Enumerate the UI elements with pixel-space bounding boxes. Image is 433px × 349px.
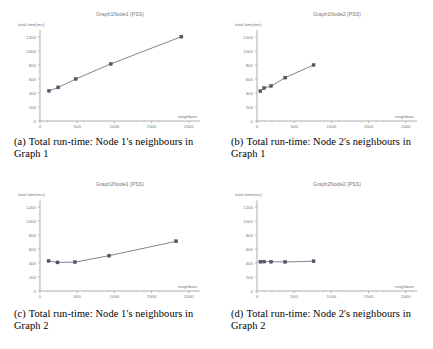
y-tick-label-b: 1000 (243, 49, 253, 54)
data-point (47, 89, 50, 92)
y-tick-label-c: 0 (34, 289, 37, 294)
chart-svg-d: Graph2Node2 (PSS)total time(ms)neighbors… (217, 170, 433, 306)
y-axis-label-c: total time(ms) (18, 192, 45, 197)
data-point (56, 261, 59, 264)
x-tick-label-b: 1000 (327, 124, 337, 129)
x-tick-label-d: 0 (256, 294, 259, 299)
data-point (263, 260, 266, 263)
caption-c-text: Total run-time: Node 1's neighbours in G… (14, 308, 193, 331)
chart-graph1node1: Graph1Node1 (PSS)total time(ms)neighbors… (0, 0, 216, 136)
chart-title-a: Graph1Node1 (PSS) (96, 11, 144, 17)
chart-svg-c: Graph2Node1 (PSS)total time(ms)neighbors… (0, 170, 216, 306)
x-axis-label-c: neighbors (178, 284, 198, 289)
chart-title-b: Graph1Node2 (PSS) (313, 11, 361, 17)
data-point (259, 260, 262, 263)
y-tick-label-d: 600 (246, 247, 254, 252)
series-line-c (49, 241, 177, 262)
caption-a-text: Total run-time: Node 1's neighbours in G… (14, 136, 193, 159)
y-tick-label-c: 600 (29, 247, 37, 252)
data-point (108, 254, 111, 257)
y-tick-label-a: 1200 (26, 35, 36, 40)
axis-lines-a (40, 30, 200, 121)
y-tick-label-c: 1000 (26, 219, 36, 224)
chart-svg-b: Graph1Node2 (PSS)total time(ms)neighbors… (217, 0, 433, 136)
x-tick-label-b: 500 (291, 124, 299, 129)
x-tick-label-c: 0 (39, 294, 42, 299)
caption-a: (a)Total run-time: Node 1's neighbours i… (14, 136, 210, 160)
caption-c-tag: (c) (14, 308, 26, 319)
x-tick-label-a: 0 (39, 124, 42, 129)
x-tick-label-a: 1500 (147, 124, 157, 129)
x-axis-label-d: neighbors (395, 284, 415, 289)
y-axis-label-d: total time(ms) (235, 192, 262, 197)
x-tick-label-b: 1500 (364, 124, 374, 129)
caption-b-text: Total run-time: Node 2's neighbours in G… (231, 136, 411, 159)
chart-graph2node2: Graph2Node2 (PSS)total time(ms)neighbors… (217, 170, 433, 306)
caption-b-tag: (b) (231, 136, 243, 147)
data-point (74, 78, 77, 81)
chart-title-d: Graph2Node2 (PSS) (313, 181, 361, 187)
chart-graph1node2: Graph1Node2 (PSS)total time(ms)neighbors… (217, 0, 433, 136)
data-point (270, 85, 273, 88)
y-tick-label-a: 1000 (26, 49, 36, 54)
data-point (57, 86, 60, 89)
y-tick-label-a: 200 (29, 105, 37, 110)
data-point (109, 62, 112, 65)
panel-a: Graph1Node1 (PSS)total time(ms)neighbors… (0, 0, 216, 174)
data-point (312, 260, 315, 263)
axis-lines-c (40, 200, 200, 291)
y-tick-label-c: 400 (29, 261, 37, 266)
data-point (73, 261, 76, 264)
y-tick-label-b: 0 (251, 119, 254, 124)
y-tick-label-a: 800 (29, 63, 37, 68)
x-tick-label-c: 500 (74, 294, 82, 299)
x-tick-label-a: 500 (74, 124, 82, 129)
y-tick-label-d: 800 (246, 233, 254, 238)
caption-d-tag: (d) (231, 308, 243, 319)
x-tick-label-c: 1000 (110, 294, 120, 299)
data-point (180, 35, 183, 38)
x-tick-label-a: 2000 (184, 124, 194, 129)
x-tick-label-c: 2000 (184, 294, 194, 299)
caption-c: (c)Total run-time: Node 1's neighbours i… (14, 308, 210, 332)
y-tick-label-d: 200 (246, 275, 254, 280)
caption-d-text: Total run-time: Node 2's neighbours in G… (231, 308, 411, 331)
y-axis-label-b: total time(ms) (235, 22, 262, 27)
chart-title-c: Graph2Node1 (PSS) (96, 181, 144, 187)
x-tick-label-d: 1500 (364, 294, 374, 299)
x-axis-label-b: neighbors (395, 114, 415, 119)
y-tick-label-b: 400 (246, 91, 254, 96)
y-tick-label-a: 600 (29, 77, 37, 82)
series-line-a (49, 37, 181, 91)
caption-a-tag: (a) (14, 136, 26, 147)
x-tick-label-b: 0 (256, 124, 259, 129)
data-point (259, 90, 262, 93)
y-tick-label-d: 1200 (243, 205, 253, 210)
x-tick-label-a: 1000 (110, 124, 120, 129)
series-line-d (260, 261, 313, 262)
y-tick-label-d: 400 (246, 261, 254, 266)
data-point (175, 240, 178, 243)
y-tick-label-c: 800 (29, 233, 37, 238)
y-tick-label-b: 600 (246, 77, 254, 82)
chart-svg-a: Graph1Node1 (PSS)total time(ms)neighbors… (0, 0, 216, 136)
x-tick-label-b: 2000 (401, 124, 411, 129)
data-point (270, 260, 273, 263)
data-point (263, 87, 266, 90)
data-point (284, 260, 287, 263)
panel-d: Graph2Node2 (PSS)total time(ms)neighbors… (217, 170, 433, 344)
panel-c: Graph2Node1 (PSS)total time(ms)neighbors… (0, 170, 216, 344)
y-tick-label-c: 1200 (26, 205, 36, 210)
y-axis-label-a: total time(ms) (18, 22, 45, 27)
series-line-b (260, 65, 313, 91)
y-tick-label-a: 0 (34, 119, 37, 124)
x-axis-label-a: neighbors (178, 114, 198, 119)
data-point (47, 259, 50, 262)
figure-four-panel-runtime: Graph1Node1 (PSS)total time(ms)neighbors… (0, 0, 433, 349)
y-tick-label-b: 800 (246, 63, 254, 68)
y-tick-label-d: 1000 (243, 219, 253, 224)
x-tick-label-d: 1000 (327, 294, 337, 299)
caption-d: (d)Total run-time: Node 2's neighbours i… (231, 308, 427, 332)
panel-b: Graph1Node2 (PSS)total time(ms)neighbors… (217, 0, 433, 174)
chart-graph2node1: Graph2Node1 (PSS)total time(ms)neighbors… (0, 170, 216, 306)
